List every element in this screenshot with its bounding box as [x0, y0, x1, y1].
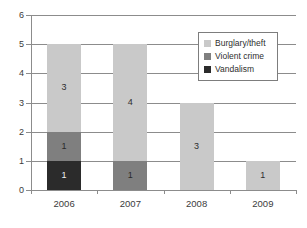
y-axis-tick — [26, 15, 32, 16]
x-axis-tick-label: 2008 — [164, 198, 230, 209]
y-axis-tick-label: 5 — [2, 39, 24, 49]
bar-group-2007[interactable]: 41 — [113, 15, 147, 190]
chart-legend: Burglary/theftViolent crimeVandalism — [198, 32, 278, 81]
legend-swatch-icon — [204, 53, 211, 60]
x-axis-tick-label: 2006 — [31, 198, 97, 209]
y-axis-tick-label: 4 — [2, 68, 24, 78]
legend-item[interactable]: Burglary/theft — [204, 37, 273, 50]
x-axis-tick-label: 2009 — [230, 198, 296, 209]
bar-segment-value-label: 3 — [62, 83, 67, 92]
y-axis-tick — [26, 161, 32, 162]
y-axis-tick-label: 3 — [2, 98, 24, 108]
legend-item-label: Burglary/theft — [215, 39, 266, 48]
legend-item[interactable]: Violent crime — [204, 50, 273, 63]
y-axis-tick — [26, 73, 32, 74]
y-axis-tick-label: 1 — [2, 156, 24, 166]
stacked-bar-chart: 6543210 3114131 2006200720082009 Burglar… — [0, 0, 307, 228]
y-axis-tick — [26, 132, 32, 133]
legend-swatch-icon — [204, 66, 211, 73]
y-axis-tick-label: 6 — [2, 10, 24, 20]
legend-item[interactable]: Vandalism — [204, 63, 273, 76]
bar-segment[interactable]: 4 — [113, 44, 147, 161]
bar-segment-value-label: 1 — [128, 171, 133, 180]
bar-segment[interactable]: 1 — [47, 132, 81, 161]
bar-segment-value-label: 4 — [128, 98, 133, 107]
bar-segment[interactable]: 1 — [113, 161, 147, 190]
y-axis-labels: 6543210 — [0, 0, 24, 228]
bar-segment-value-label: 1 — [62, 142, 67, 151]
bar-group-2006[interactable]: 311 — [47, 15, 81, 190]
y-axis-tick — [26, 103, 32, 104]
legend-item-label: Violent crime — [215, 52, 264, 61]
bar-segment[interactable]: 3 — [180, 103, 214, 191]
x-axis-tick — [296, 190, 297, 194]
bar-segment-value-label: 1 — [260, 171, 265, 180]
legend-swatch-icon — [204, 40, 211, 47]
legend-item-label: Vandalism — [215, 65, 254, 74]
bar-segment[interactable]: 3 — [47, 44, 81, 132]
x-axis-tick — [97, 190, 98, 194]
x-axis-tick-label: 2007 — [97, 198, 163, 209]
bar-segment[interactable]: 1 — [246, 161, 280, 190]
y-axis-tick-label: 0 — [2, 185, 24, 195]
y-axis-tick — [26, 44, 32, 45]
y-axis-tick-label: 2 — [2, 127, 24, 137]
x-axis-tick — [31, 190, 32, 194]
x-axis-tick — [164, 190, 165, 194]
bar-segment-value-label: 3 — [194, 142, 199, 151]
bar-segment-value-label: 1 — [62, 171, 67, 180]
bar-segment[interactable]: 1 — [47, 161, 81, 190]
x-axis-tick — [230, 190, 231, 194]
